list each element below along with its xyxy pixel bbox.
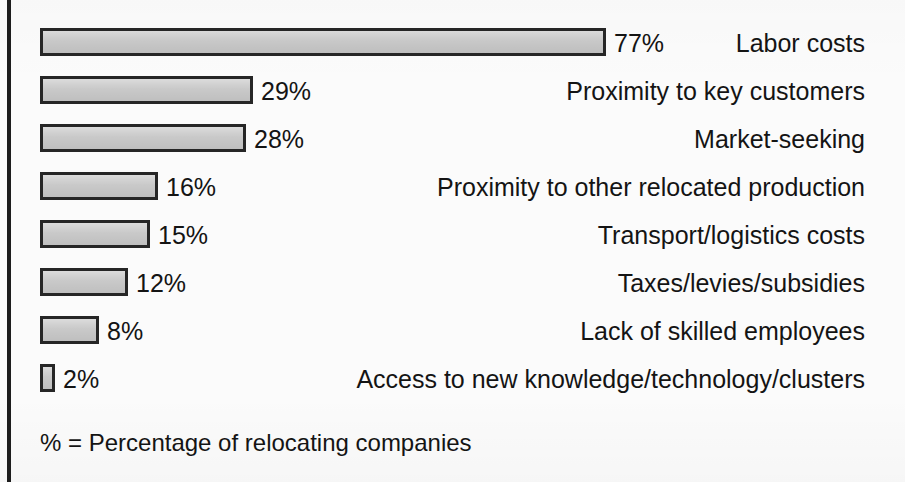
bar-sheen — [43, 127, 243, 149]
bar-row: 28%Market-seeking — [0, 118, 905, 166]
bar-value-label: 77% — [614, 29, 664, 57]
bar-7 — [40, 316, 99, 344]
bar-6 — [40, 268, 128, 296]
bar-row: 15%Transport/logistics costs — [0, 214, 905, 262]
bar-category-label: Transport/logistics costs — [598, 221, 865, 249]
bar-category-label: Taxes/levies/subsidies — [618, 269, 865, 297]
bar-category-label: Market-seeking — [694, 125, 865, 153]
bar-row: 29%Proximity to key customers — [0, 70, 905, 118]
bar-category-label: Lack of skilled employees — [580, 317, 865, 345]
bar-5 — [40, 220, 150, 248]
bar-row: 2%Access to new knowledge/technology/clu… — [0, 358, 905, 406]
bar-row: 8%Lack of skilled employees — [0, 310, 905, 358]
bar-value-label: 12% — [136, 269, 186, 297]
bar-category-label: Access to new knowledge/technology/clust… — [356, 365, 865, 393]
bar-value-label: 29% — [261, 77, 311, 105]
bar-sheen — [43, 271, 125, 293]
bar-sheen — [43, 367, 52, 389]
bar-value-label: 8% — [107, 317, 143, 345]
bar-value-label: 15% — [158, 221, 208, 249]
bar-value-label: 16% — [166, 173, 216, 201]
bar-sheen — [43, 79, 250, 101]
bar-sheen — [43, 223, 147, 245]
bar-8 — [40, 364, 55, 392]
bar-value-label: 2% — [63, 365, 99, 393]
bar-row: 16%Proximity to other relocated producti… — [0, 166, 905, 214]
chart-footnote: % = Percentage of relocating companies — [40, 428, 472, 458]
bar-row: 12%Taxes/levies/subsidies — [0, 262, 905, 310]
bar-category-label: Proximity to key customers — [566, 77, 865, 105]
bar-sheen — [43, 175, 155, 197]
chart-page: 77%Labor costs29%Proximity to key custom… — [0, 0, 905, 482]
bar-category-label: Proximity to other relocated production — [437, 173, 865, 201]
bar-4 — [40, 172, 158, 200]
bar-2 — [40, 76, 253, 104]
bar-category-label: Labor costs — [736, 29, 865, 57]
horizontal-bar-chart: 77%Labor costs29%Proximity to key custom… — [0, 0, 905, 482]
bar-value-label: 28% — [254, 125, 304, 153]
bar-1 — [40, 28, 606, 56]
bar-row: 77%Labor costs — [0, 22, 905, 70]
bar-sheen — [43, 31, 603, 53]
bar-3 — [40, 124, 246, 152]
bar-sheen — [43, 319, 96, 341]
